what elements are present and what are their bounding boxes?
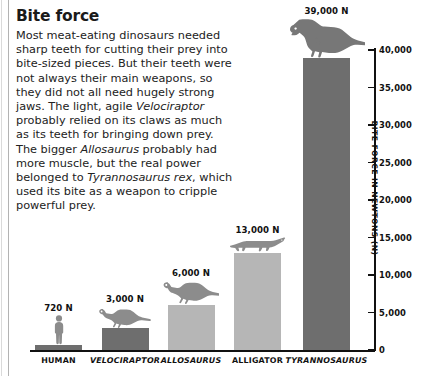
y-axis-title: BITE FORCE IN NEWTONS (N) <box>370 121 379 256</box>
infographic-page: Bite force Most meat-eating dinosaurs ne… <box>0 0 443 376</box>
alligator-silhouette <box>230 237 286 253</box>
x-axis-baseline <box>30 350 375 352</box>
y-axis-tick-mark <box>368 312 375 313</box>
y-axis-tick-mark <box>368 49 375 50</box>
y-axis-tick-label: 30,000 <box>379 120 412 130</box>
human-silhouette <box>52 315 66 345</box>
velociraptor-silhouette <box>99 306 151 328</box>
bite-force-bar-chart: 05,00010,00015,00020,00025,00030,00035,0… <box>0 0 443 376</box>
bar-tyrannosaurus[interactable] <box>303 58 350 351</box>
y-axis-tick-label: 10,000 <box>379 270 412 280</box>
y-axis-tick-label: 20,000 <box>379 195 412 205</box>
bar-value-label: 39,000 N <box>304 6 348 16</box>
y-axis-tick-label: 15,000 <box>379 233 412 243</box>
tyrannosaurus-silhouette <box>289 18 365 58</box>
bar-velociraptor[interactable] <box>102 328 149 351</box>
y-axis-tick-label: 0 <box>379 345 385 355</box>
bar-value-label: 720 N <box>44 303 73 313</box>
x-axis-category-human: HUMAN <box>41 356 76 365</box>
y-axis-tick-mark <box>368 87 375 88</box>
y-axis-tick-label: 40,000 <box>379 45 412 55</box>
bar-value-label: 6,000 N <box>172 268 210 278</box>
y-axis-tick-mark <box>368 274 375 275</box>
bar-value-label: 13,000 N <box>235 225 279 235</box>
y-axis-tick-mark <box>368 349 375 350</box>
allosaurus-silhouette <box>163 280 219 305</box>
bar-alligator[interactable] <box>234 253 281 351</box>
x-axis-category-velociraptor: VELOCIRAPTOR <box>90 356 160 365</box>
bar-value-label: 3,000 N <box>106 294 144 304</box>
bar-human[interactable] <box>35 345 82 350</box>
x-axis-category-alligator: ALLIGATOR <box>232 356 283 365</box>
y-axis-tick-label: 25,000 <box>379 158 412 168</box>
y-axis-tick-label: 5,000 <box>379 308 406 318</box>
x-axis-category-tyrannosaurus: TYRANNOSAURUS <box>286 356 368 365</box>
x-axis-category-allosaurus: ALLOSAURUS <box>161 356 222 365</box>
y-axis-tick-label: 35,000 <box>379 83 412 93</box>
bar-allosaurus[interactable] <box>168 305 215 350</box>
